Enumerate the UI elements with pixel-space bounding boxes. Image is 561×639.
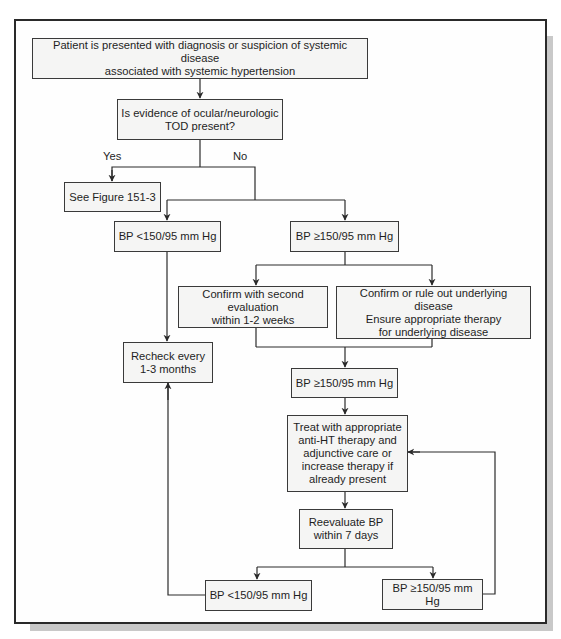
confirm-second-evaluation-node: Confirm with second evaluation within 1-…: [178, 286, 328, 328]
bp-high-node-3: BP ≥150/95 mm Hg: [382, 579, 483, 610]
recheck-node: Recheck every 1-3 months: [123, 342, 213, 383]
see-figure-node: See Figure 151-3: [64, 182, 161, 212]
reevaluate-node: Reevaluate BP within 7 days: [299, 509, 393, 549]
bp-low-node-3: BP <150/95 mm Hg: [205, 580, 312, 611]
confirm-underlying-disease-node: Confirm or rule out underlying disease E…: [336, 286, 531, 339]
start-node: Patient is presented with diagnosis or s…: [32, 38, 368, 79]
bp-high-node-1: BP ≥150/95 mm Hg: [290, 221, 399, 252]
yes-label: Yes: [103, 150, 121, 162]
treat-node: Treat with appropriate anti-HT therapy a…: [287, 415, 408, 492]
tod-question-node: Is evidence of ocular/neurologic TOD pre…: [117, 99, 283, 140]
bp-low-node-1: BP <150/95 mm Hg: [114, 221, 221, 252]
no-label: No: [233, 150, 247, 162]
bp-high-node-2: BP ≥150/95 mm Hg: [291, 368, 398, 398]
